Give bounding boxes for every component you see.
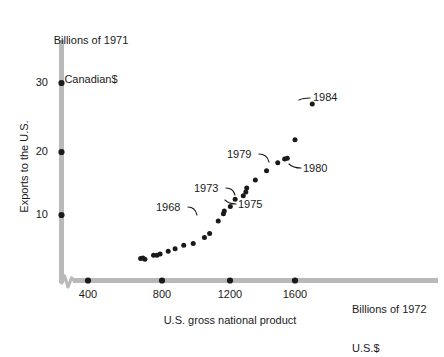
y-tick-label-10: 10 — [18, 208, 48, 220]
data-point — [181, 243, 186, 248]
annotation-label-1980: 1980 — [303, 162, 327, 174]
y-tick-label-20: 20 — [18, 145, 48, 157]
data-point — [293, 137, 298, 142]
x-axis-unit-line2: U.S.$ — [352, 342, 444, 355]
data-point — [166, 249, 171, 254]
data-point — [216, 218, 221, 223]
x-tick-label-800: 800 — [142, 288, 182, 300]
leader-line-1973 — [226, 188, 235, 195]
data-point — [228, 204, 233, 209]
x-tick-label-1600: 1600 — [275, 288, 315, 300]
data-points — [138, 102, 315, 262]
annotation-label-1979: 1979 — [227, 148, 251, 160]
data-point — [191, 241, 196, 246]
x-axis-unit-line1: Billions of 1972 — [352, 303, 444, 316]
leader-line-1984 — [299, 98, 310, 100]
data-point — [222, 209, 227, 214]
leader-line-1968 — [188, 207, 197, 215]
data-point — [264, 168, 269, 173]
data-point — [173, 246, 178, 251]
annotation-label-1968: 1968 — [156, 201, 180, 213]
y-axis-unit-label: Billions of 1971 Canadian$ — [32, 8, 150, 112]
leader-line-1980 — [289, 164, 301, 168]
annotation-label-1975: 1975 — [238, 198, 262, 210]
x-tick-label-1200: 1200 — [210, 288, 250, 300]
data-point — [253, 178, 258, 183]
x-axis-break-icon — [62, 276, 75, 287]
x-tick-label-400: 400 — [68, 288, 108, 300]
data-point — [207, 231, 212, 236]
x-axis-title: U.S. gross national product — [120, 314, 340, 327]
data-point — [202, 235, 207, 240]
annotation-label-1973: 1973 — [194, 182, 218, 194]
data-point — [285, 156, 290, 161]
data-point — [142, 257, 147, 262]
y-tick-label-30: 30 — [18, 76, 48, 88]
y-axis-unit-line1: Billions of 1971 — [32, 34, 150, 47]
data-point — [158, 251, 163, 256]
y-axis-unit-line2: Canadian$ — [32, 73, 150, 86]
annotation-label-1984: 1984 — [313, 91, 337, 103]
data-point — [233, 197, 238, 202]
data-point — [275, 160, 280, 165]
x-axis-unit-label: Billions of 1972 U.S.$ — [352, 277, 444, 357]
leader-line-1979 — [259, 154, 269, 162]
